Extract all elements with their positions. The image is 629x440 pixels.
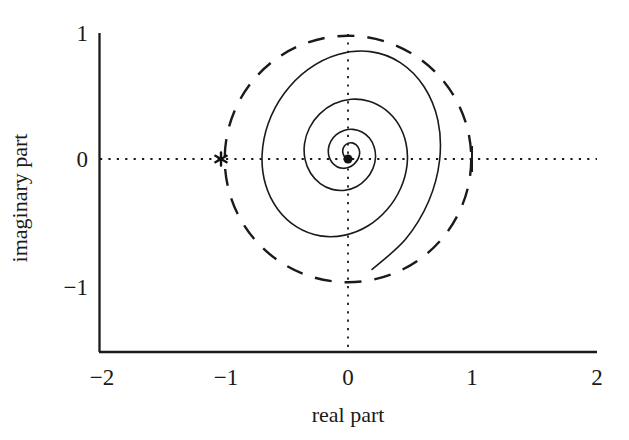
x-tick-label-neg1: −1 — [214, 366, 238, 389]
figure-root: 1 0 −1 −2 −1 0 1 2 real part imaginary p… — [0, 0, 629, 440]
x-tick-label-neg2: −2 — [90, 366, 114, 389]
y-tick-label-1: 1 — [66, 22, 88, 45]
y-tick-label-0: 0 — [66, 148, 88, 171]
x-tick-label-2: 2 — [591, 366, 603, 389]
x-tick-label-0: 0 — [342, 366, 354, 389]
y-axis-title: imaginary part — [9, 134, 31, 263]
x-axis-title: real part — [312, 404, 385, 426]
origin-point-marker — [344, 155, 353, 164]
y-tick-label-neg1: −1 — [56, 276, 88, 299]
x-tick-label-1: 1 — [466, 366, 478, 389]
